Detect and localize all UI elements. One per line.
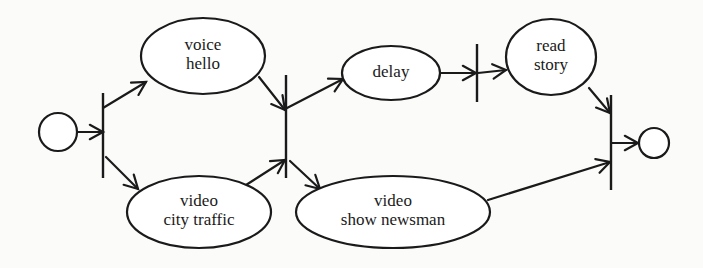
activity-label: delay xyxy=(373,62,410,81)
activity-node-read-story: readstory xyxy=(506,19,596,95)
edge-delay-to-sync-3 xyxy=(440,66,476,80)
edge-start-to-fork-1 xyxy=(77,125,103,139)
arrowhead-icon xyxy=(270,160,285,173)
edge-line xyxy=(488,162,610,200)
end-node xyxy=(639,128,669,158)
edge-join-fork-2-to-delay xyxy=(287,79,343,108)
edge-line xyxy=(287,79,343,108)
activity-label: story xyxy=(534,55,569,74)
activity-label: read xyxy=(536,36,566,55)
edge-join-4-to-end xyxy=(612,136,638,150)
edge-video-city-traffic-to-join-fork-2 xyxy=(246,160,285,185)
edge-voice-hello-to-join-fork-2 xyxy=(259,77,285,110)
activity-label: voice xyxy=(185,35,222,54)
edge-read-story-to-join-4 xyxy=(589,88,610,113)
activity-node-video-city-traffic: videocity traffic xyxy=(127,176,271,248)
edge-fork-1-to-voice-hello xyxy=(103,82,146,108)
activity-label: show newsman xyxy=(341,210,446,229)
activity-label: city traffic xyxy=(164,210,235,229)
activity-node-video-show-newsman: videoshow newsman xyxy=(296,176,490,248)
activity-label: hello xyxy=(186,54,220,73)
edge-line xyxy=(106,157,138,189)
activity-diagram: voicehellovideocity trafficdelayreadstor… xyxy=(0,0,703,268)
activity-label: video xyxy=(374,191,412,210)
nodes-layer: voicehellovideocity trafficdelayreadstor… xyxy=(39,18,669,248)
activity-label: video xyxy=(180,191,218,210)
edge-join-fork-2-to-video-show-newsman xyxy=(290,161,320,189)
activity-node-voice-hello: voicehello xyxy=(141,18,265,94)
edge-fork-1-to-video-city-traffic xyxy=(106,157,138,189)
start-node xyxy=(39,113,77,151)
activity-node-delay: delay xyxy=(342,46,440,100)
edge-video-show-newsman-to-join-4 xyxy=(488,159,610,200)
edge-sync-3-to-read-story xyxy=(478,64,506,78)
